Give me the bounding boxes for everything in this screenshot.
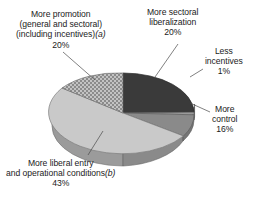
slice-label-more-control: More control 16%	[212, 104, 237, 135]
label-line: (general and sectoral)	[20, 19, 103, 29]
pie-top-face	[49, 73, 194, 154]
label-line: (including incentives)	[16, 29, 95, 39]
slice-percent: 43%	[6, 178, 115, 188]
slice-percent: 1%	[205, 66, 243, 76]
slice-label-more-liberal-entry: More liberal entry and operational condi…	[6, 158, 115, 189]
slice-percent: 16%	[212, 124, 237, 134]
slice-percent: 20%	[16, 40, 106, 50]
leader-line-more-sectoral-liberalization	[155, 44, 178, 77]
footnote-marker-a: (a)	[95, 29, 105, 39]
label-line: and operational conditions	[6, 168, 105, 178]
slice-percent: 20%	[147, 27, 198, 37]
label-line: incentives	[205, 56, 243, 66]
slice-label-less-incentives: Less incentives 1%	[205, 46, 243, 77]
label-line: More	[215, 104, 234, 114]
label-line: More liberal entry	[28, 158, 94, 168]
label-line: Less	[215, 46, 233, 56]
leader-line-more-promotion	[63, 52, 95, 80]
label-line: liberalization	[149, 17, 196, 27]
pie-slice-more-sectoral-liberalization[interactable]	[123, 73, 194, 113]
leader-line-less-incentives	[190, 69, 203, 77]
label-line: More promotion	[31, 9, 90, 19]
footnote-marker-b: (b)	[105, 168, 115, 178]
pie-chart: More promotion (general and sectoral) (i…	[0, 0, 275, 197]
label-line: More sectoral	[147, 7, 198, 17]
slice-label-more-sectoral-liberalization: More sectoral liberalization 20%	[147, 7, 198, 38]
label-line: control	[212, 114, 237, 124]
slice-label-more-promotion: More promotion (general and sectoral) (i…	[16, 9, 106, 50]
